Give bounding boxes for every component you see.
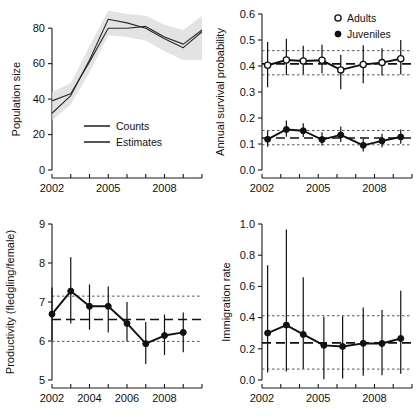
- y-axis-tick-label: 9: [39, 218, 45, 230]
- chart-productivity: 567892002200420062008Productivity (fledg…: [0, 210, 210, 420]
- data-point: [265, 330, 271, 336]
- figure-panel-grid: 020406080200220052008Population sizeCoun…: [0, 0, 420, 420]
- y-axis-tick-label: 40: [33, 93, 45, 105]
- y-axis-tick-label: 80: [33, 22, 45, 34]
- y-axis-tick-label: 8: [39, 257, 45, 269]
- chart-immigration-rate: 0.00.20.40.60.81.0200220052008Immigratio…: [210, 210, 420, 420]
- y-axis-tick-label: 0.2: [240, 112, 255, 124]
- data-point: [319, 57, 325, 63]
- data-point: [319, 137, 325, 143]
- y-axis-tick-label: 20: [33, 128, 45, 140]
- panel-immigration-rate: 0.00.20.40.60.81.0200220052008Immigratio…: [210, 210, 420, 420]
- data-point: [338, 67, 344, 73]
- data-point: [283, 57, 289, 63]
- y-axis-tick-label: 0.6: [240, 280, 255, 292]
- data-point: [143, 341, 149, 347]
- data-point: [49, 311, 55, 317]
- y-axis-tick-label: 6: [39, 335, 45, 347]
- chart-population-size: 020406080200220052008Population sizeCoun…: [0, 0, 210, 210]
- data-point: [300, 128, 306, 134]
- data-point: [124, 320, 130, 326]
- data-point: [398, 336, 404, 342]
- data-point: [265, 62, 271, 68]
- data-point: [379, 340, 385, 346]
- y-axis-tick-label: 0.4: [240, 60, 255, 72]
- y-axis-tick-label: 60: [33, 57, 45, 69]
- x-axis-tick-label: 2002: [40, 182, 64, 194]
- data-point: [360, 340, 366, 346]
- data-point: [283, 322, 289, 328]
- x-axis-tick-label: 2004: [77, 392, 101, 404]
- x-axis-tick-label: 2002: [40, 392, 64, 404]
- y-axis-tick-label: 0: [39, 164, 45, 176]
- data-point: [379, 60, 385, 66]
- data-point: [265, 136, 271, 142]
- x-axis-tick-label: 2002: [250, 392, 274, 404]
- data-point: [87, 303, 93, 309]
- legend-label-adults: Adults: [347, 12, 376, 24]
- data-point: [68, 288, 74, 294]
- credible-interval-band: [52, 10, 202, 120]
- chart-annual-survival-probability: 0.00.10.20.30.40.50.6200220052008Annual …: [210, 0, 420, 210]
- panel-population-size: 020406080200220052008Population sizeCoun…: [0, 0, 210, 210]
- y-axis-label: Immigration rate: [220, 262, 232, 341]
- y-axis-label: Productivity (fledgling/female): [4, 230, 16, 374]
- y-axis-tick-label: 0.0: [240, 164, 255, 176]
- data-point: [300, 58, 306, 64]
- x-axis-tick-label: 2005: [306, 392, 330, 404]
- data-point: [321, 342, 327, 348]
- y-axis-label: Annual survival probability: [214, 28, 226, 156]
- data-point: [283, 126, 289, 132]
- data-point: [398, 134, 404, 140]
- legend-label-juveniles: Juveniles: [347, 28, 391, 40]
- data-point: [105, 303, 111, 309]
- data-point: [398, 56, 404, 62]
- y-axis-tick-label: 0.6: [240, 8, 255, 20]
- x-axis-tick-label: 2005: [306, 182, 330, 194]
- legend-marker-juveniles: [335, 31, 341, 37]
- y-axis-tick-label: 0.8: [240, 249, 255, 261]
- x-axis-tick-label: 2008: [362, 182, 386, 194]
- y-axis-tick-label: 7: [39, 296, 45, 308]
- y-axis-tick-label: 0.2: [240, 343, 255, 355]
- y-axis-tick-label: 0.1: [240, 138, 255, 150]
- y-axis-label: Population size: [10, 62, 22, 137]
- legend-label-counts: Counts: [116, 120, 149, 132]
- legend-label-estimates: Estimates: [116, 136, 162, 148]
- y-axis-tick-label: 0.4: [240, 311, 255, 323]
- data-point: [360, 61, 366, 67]
- data-point: [162, 333, 168, 339]
- panel-productivity: 567892002200420062008Productivity (fledg…: [0, 210, 210, 420]
- panel-annual-survival-probability: 0.00.10.20.30.40.50.6200220052008Annual …: [210, 0, 420, 210]
- x-axis-tick-label: 2008: [362, 392, 386, 404]
- y-axis-tick-label: 1.0: [240, 218, 255, 230]
- x-axis-tick-label: 2006: [115, 392, 139, 404]
- x-axis-tick-label: 2008: [152, 182, 176, 194]
- legend-marker-adults: [335, 15, 341, 21]
- x-axis-tick-label: 2002: [250, 182, 274, 194]
- y-axis-tick-label: 0.3: [240, 86, 255, 98]
- y-axis-tick-label: 0.0: [240, 374, 255, 386]
- data-point: [300, 331, 306, 337]
- data-point: [340, 343, 346, 349]
- data-point: [338, 132, 344, 138]
- y-axis-tick-label: 0.5: [240, 34, 255, 46]
- x-axis-tick-label: 2005: [96, 182, 120, 194]
- x-axis-tick-label: 2008: [152, 392, 176, 404]
- y-axis-tick-label: 5: [39, 374, 45, 386]
- data-point: [379, 138, 385, 144]
- data-point: [360, 142, 366, 148]
- data-point: [180, 329, 186, 335]
